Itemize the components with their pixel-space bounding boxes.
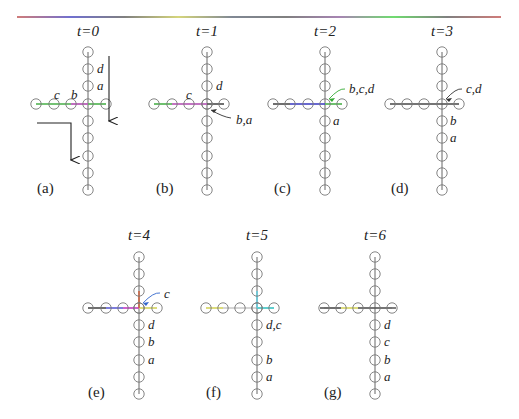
panel-title: t=1 (196, 23, 218, 39)
panels-group: t=0dacb(a)t=1dcb,a(b)t=2ab,c,d(c)t=3bac,… (31, 23, 482, 401)
agent-label: c (54, 87, 60, 102)
callout-label: b,c,d (349, 81, 375, 96)
agent-label: d (216, 78, 223, 93)
agent-label: b (384, 352, 391, 367)
callout-label: b,a (236, 112, 253, 127)
panel-title: t=5 (246, 227, 268, 243)
panel-label: (a) (37, 180, 54, 197)
agent-label: b (71, 87, 78, 102)
panel-title: t=4 (128, 227, 150, 243)
panel-c: t=2ab,c,d(c) (268, 23, 375, 197)
agent-label: d (97, 61, 104, 76)
panel-d: t=3bac,d(d) (385, 23, 482, 197)
agent-label: a (384, 369, 391, 384)
figure-canvas: t=0dacb(a)t=1dcb,a(b)t=2ab,c,d(c)t=3bac,… (0, 0, 519, 419)
panel-e: t=4dbac(e) (83, 227, 170, 401)
panel-f: t=5d,cba(f) (201, 227, 282, 401)
agent-label: a (266, 369, 273, 384)
turn-down-arrow-icon (37, 123, 71, 160)
agent-label: d,c (266, 317, 282, 332)
panel-b: t=1dcb,a(b) (149, 23, 253, 197)
panel-title: t=6 (364, 227, 386, 243)
callout-arrow-icon (329, 89, 345, 99)
agent-label: d (384, 317, 391, 332)
callout-label: c (164, 286, 170, 301)
panel-label: (g) (324, 384, 342, 401)
agent-label: c (186, 87, 192, 102)
panel-g: t=6dcba(g) (319, 227, 397, 401)
panel-title: t=2 (314, 23, 336, 39)
agent-label: d (148, 317, 155, 332)
agent-label: c (384, 334, 390, 349)
panel-label: (c) (274, 180, 291, 197)
agent-label: a (148, 352, 155, 367)
diagram-svg: t=0dacb(a)t=1dcb,a(b)t=2ab,c,d(c)t=3bac,… (0, 0, 519, 419)
callout-arrow-icon (446, 89, 462, 99)
panel-label: (e) (88, 384, 105, 401)
panel-label: (f) (206, 384, 221, 401)
agent-label: a (450, 130, 457, 145)
panel-label: (d) (391, 180, 409, 197)
agent-label: b (450, 113, 457, 128)
callout-label: c,d (466, 81, 482, 96)
agent-label: a (97, 78, 104, 93)
agent-label: a (333, 113, 340, 128)
callout-arrow-icon (143, 293, 160, 303)
panel-title: t=3 (431, 23, 453, 39)
panel-a: t=0dacb(a) (31, 23, 111, 197)
agent-label: b (148, 334, 155, 349)
panel-label: (b) (156, 180, 174, 197)
panel-title: t=0 (77, 23, 99, 39)
agent-label: b (266, 352, 273, 367)
